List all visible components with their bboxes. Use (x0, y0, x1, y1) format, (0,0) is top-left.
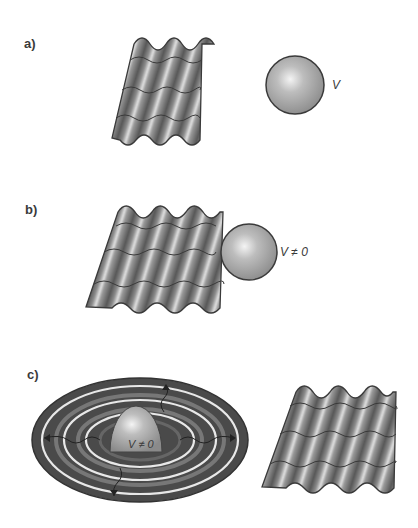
figure-canvas (0, 0, 418, 528)
sphere-a (266, 56, 324, 114)
volume-label-c: V ≠ 0 (128, 438, 154, 450)
panel-label-b: b) (25, 202, 37, 217)
volume-label-b: V ≠ 0 (280, 245, 308, 259)
wave-sheet-b (86, 206, 224, 313)
sphere-b (221, 224, 277, 280)
panel-label-c: c) (27, 367, 39, 382)
volume-label-a: V (332, 78, 340, 92)
wave-sheet-c (262, 386, 397, 493)
wave-sheet-a (112, 38, 214, 145)
panel-label-a: a) (24, 36, 36, 51)
